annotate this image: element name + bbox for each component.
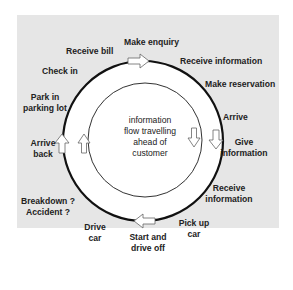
label-drive-car: Drive car — [80, 222, 110, 243]
center-description: information flow travelling ahead of cus… — [110, 115, 190, 159]
label-make-reservation: Make reservation — [205, 79, 275, 90]
label-arrive: Arrive — [223, 112, 248, 123]
label-receive-information-top: Receive information — [180, 56, 262, 67]
label-make-enquiry: Make enquiry — [124, 37, 179, 48]
label-receive-information-bottom: Receive information — [203, 183, 255, 204]
label-start-and-drive-off: Start and drive off — [124, 232, 172, 253]
label-breakdown-accident: Breakdown ? Accident ? — [21, 196, 75, 217]
label-check-in: Check in — [42, 66, 78, 77]
label-arrive-back: Arrive back — [26, 138, 60, 159]
label-pick-up-car: Pick up car — [174, 218, 214, 239]
label-park-in-parking-lot: Park in parking lot — [22, 92, 68, 113]
label-receive-bill: Receive bill — [66, 46, 113, 57]
label-give-information: Give information — [217, 137, 271, 158]
